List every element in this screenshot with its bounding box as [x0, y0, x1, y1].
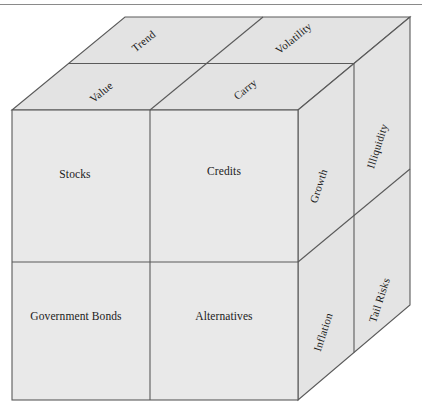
cube-geometry: [0, 0, 422, 411]
front-face: [12, 110, 298, 400]
cube-figure: Stocks Credits Government Bonds Alternat…: [0, 0, 422, 411]
